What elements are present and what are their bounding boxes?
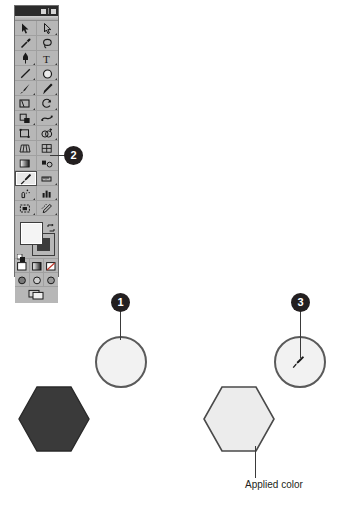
tool-slice[interactable] xyxy=(37,201,59,216)
rotate-icon xyxy=(41,98,53,109)
tool-selection[interactable] xyxy=(15,21,37,36)
draw-mode-row[interactable] xyxy=(15,273,58,287)
line-segment-icon xyxy=(20,68,31,79)
tool-type[interactable]: T xyxy=(37,51,59,66)
flyout-triangle-icon xyxy=(55,183,57,185)
tool-pencil[interactable] xyxy=(37,81,59,96)
shape-builder-icon xyxy=(41,128,53,139)
type-tool-icon: T xyxy=(42,53,53,64)
source-circle[interactable] xyxy=(95,336,147,388)
hexagon-right[interactable] xyxy=(203,386,275,456)
tools-panel-titlebar[interactable] xyxy=(15,6,58,16)
flyout-triangle-icon xyxy=(55,213,57,215)
tool-paintbrush[interactable] xyxy=(15,81,37,96)
eyedropper-cursor-icon xyxy=(292,354,306,374)
tool-eyedropper[interactable] xyxy=(15,171,37,186)
tool-symbol-sprayer[interactable] xyxy=(15,186,37,201)
callout-3-number: 3 xyxy=(297,297,303,308)
symbol-sprayer-icon xyxy=(19,188,31,199)
free-transform-icon xyxy=(19,128,31,139)
magic-wand-icon xyxy=(20,38,31,49)
flyout-triangle-icon xyxy=(55,63,57,65)
tool-measure[interactable] xyxy=(37,171,59,186)
draw-mode-behind[interactable] xyxy=(30,273,45,286)
tool-direct-selection[interactable] xyxy=(37,21,59,36)
tool-warp[interactable] xyxy=(37,111,59,126)
flyout-triangle-icon xyxy=(55,78,57,80)
gradient-icon xyxy=(19,158,31,169)
swap-fill-stroke-icon[interactable] xyxy=(47,218,55,226)
close-icon[interactable] xyxy=(51,9,56,14)
direct-selection-arrow-icon xyxy=(43,23,52,34)
tool-rotate[interactable] xyxy=(37,96,59,111)
flyout-triangle-icon xyxy=(33,63,35,65)
ellipse-shape-icon xyxy=(42,68,53,79)
warp-icon xyxy=(41,113,53,124)
slice-icon xyxy=(41,203,53,214)
color-controls[interactable] xyxy=(15,216,58,259)
screen-mode-row[interactable] xyxy=(15,287,58,303)
measure-icon xyxy=(41,173,53,184)
tool-grid[interactable]: T xyxy=(15,21,58,216)
mesh-icon xyxy=(41,143,53,154)
flyout-triangle-icon xyxy=(55,123,57,125)
tool-free-transform[interactable] xyxy=(15,126,37,141)
perspective-grid-icon xyxy=(19,143,31,154)
callout-2: 2 xyxy=(64,146,83,165)
callout-1: 1 xyxy=(111,293,130,312)
divider-icon xyxy=(48,8,49,14)
tool-gradient[interactable] xyxy=(15,156,37,171)
flyout-triangle-icon xyxy=(55,33,57,35)
draw-normal-icon xyxy=(17,271,27,289)
callout-1-number: 1 xyxy=(117,297,123,308)
change-screen-mode-icon[interactable] xyxy=(28,286,46,304)
callout-3-leader xyxy=(300,310,301,358)
pencil-icon xyxy=(42,83,53,94)
flyout-triangle-icon xyxy=(55,198,57,200)
scale-icon xyxy=(19,113,31,124)
tool-shape-builder[interactable] xyxy=(37,126,59,141)
svg-text:T: T xyxy=(43,53,50,64)
window-controls[interactable] xyxy=(41,8,56,14)
tool-pen[interactable] xyxy=(15,51,37,66)
callout-2-number: 2 xyxy=(70,150,76,161)
tool-ellipse[interactable] xyxy=(37,66,59,81)
fill-swatch[interactable] xyxy=(20,222,43,245)
tool-magic-wand[interactable] xyxy=(15,36,37,51)
draw-mode-inside[interactable] xyxy=(44,273,58,286)
flyout-triangle-icon xyxy=(55,93,57,95)
tool-perspective-grid[interactable] xyxy=(15,141,37,156)
tool-artboard[interactable] xyxy=(15,201,37,216)
flyout-triangle-icon xyxy=(33,93,35,95)
column-graph-icon xyxy=(41,188,53,199)
blend-icon xyxy=(41,158,53,169)
tool-mesh[interactable] xyxy=(37,141,59,156)
flyout-triangle-icon xyxy=(33,213,35,215)
flyout-triangle-icon xyxy=(33,78,35,80)
flyout-triangle-icon xyxy=(55,138,57,140)
paintbrush-icon xyxy=(20,83,31,94)
tool-scale[interactable] xyxy=(15,111,37,126)
selection-arrow-icon xyxy=(21,23,30,34)
applied-color-label: Applied color xyxy=(245,479,303,490)
hexagon-left[interactable] xyxy=(18,386,90,456)
pen-icon xyxy=(21,52,30,64)
flyout-triangle-icon xyxy=(33,198,35,200)
tool-lasso[interactable] xyxy=(37,36,59,51)
minimize-icon[interactable] xyxy=(41,9,46,14)
callout-3: 3 xyxy=(291,293,310,312)
tools-panel[interactable]: T xyxy=(14,5,59,277)
draw-mode-normal[interactable] xyxy=(15,273,30,286)
flyout-triangle-icon xyxy=(33,123,35,125)
tool-blend-top[interactable] xyxy=(37,156,59,171)
artboard-icon xyxy=(19,203,31,214)
tool-column-graph[interactable] xyxy=(37,186,59,201)
flyout-triangle-icon xyxy=(55,108,57,110)
applied-color-leader xyxy=(255,446,256,478)
draw-inside-icon xyxy=(46,271,56,289)
eyedropper-icon xyxy=(20,173,32,185)
tool-line-segment[interactable] xyxy=(15,66,37,81)
tool-eraser[interactable] xyxy=(15,96,37,111)
default-fill-stroke-icon[interactable] xyxy=(17,248,25,256)
flyout-triangle-icon xyxy=(33,108,35,110)
